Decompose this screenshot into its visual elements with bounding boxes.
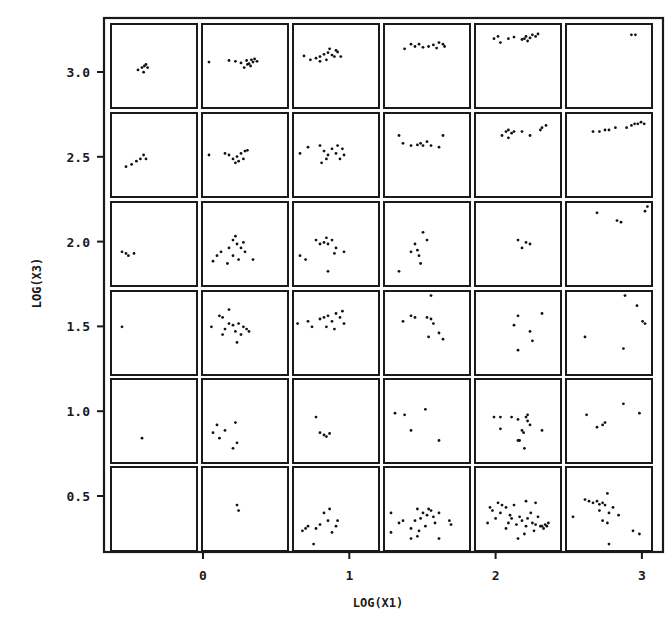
data-point [139, 158, 142, 161]
panel [566, 379, 652, 463]
panel-frame [566, 202, 652, 286]
data-point [624, 294, 627, 297]
data-point [601, 501, 604, 504]
data-point [319, 431, 322, 434]
data-point [438, 439, 441, 442]
data-point [307, 146, 310, 149]
data-point [588, 500, 591, 503]
data-point [236, 243, 239, 246]
data-point [507, 136, 510, 139]
data-point [398, 270, 401, 273]
data-point [402, 320, 405, 323]
panel-frame [384, 24, 470, 108]
data-point [616, 219, 619, 222]
data-point [596, 426, 599, 429]
data-point [622, 347, 625, 350]
data-point [240, 152, 243, 155]
data-point [312, 543, 315, 546]
panel-frame [202, 379, 288, 463]
data-point [137, 69, 140, 72]
data-point [245, 328, 248, 331]
data-point [331, 531, 334, 534]
data-point [529, 512, 532, 515]
data-point [541, 525, 544, 528]
data-point [592, 130, 595, 133]
data-point [208, 154, 211, 157]
data-point [232, 324, 235, 327]
data-point [248, 330, 251, 333]
data-point [216, 254, 219, 257]
data-point [390, 531, 393, 534]
data-point [304, 527, 307, 530]
data-point [641, 320, 644, 323]
data-point [442, 134, 445, 137]
data-point [614, 126, 617, 129]
data-point [509, 514, 512, 517]
data-point [517, 314, 520, 317]
data-point [253, 58, 256, 61]
data-point [534, 35, 537, 38]
data-point [232, 254, 235, 257]
data-point [343, 154, 346, 157]
data-point [319, 144, 322, 147]
panel-frame [475, 291, 561, 375]
panel-frame [111, 202, 197, 286]
data-point [127, 254, 130, 257]
data-point [403, 47, 406, 50]
data-point [505, 527, 508, 530]
data-point [414, 316, 417, 319]
data-point [323, 241, 326, 244]
data-point [606, 522, 609, 525]
panel-frame [475, 24, 561, 108]
panel-frame [384, 113, 470, 197]
data-point [234, 421, 237, 424]
data-point [327, 519, 330, 522]
data-point [617, 514, 620, 517]
data-point [333, 55, 336, 58]
data-point [499, 416, 502, 419]
data-point [636, 304, 639, 307]
data-point [336, 144, 339, 147]
panel [293, 24, 379, 108]
data-point [242, 158, 245, 161]
data-point [121, 250, 124, 253]
data-point [315, 416, 318, 419]
data-point [414, 243, 417, 246]
panel [566, 113, 652, 197]
data-point [327, 154, 330, 157]
data-point [220, 250, 223, 253]
data-point [430, 509, 433, 512]
data-point [533, 529, 536, 532]
data-point [216, 424, 219, 427]
x-tick-label: 0 [199, 568, 207, 583]
data-point [525, 35, 528, 38]
data-point [501, 504, 504, 507]
data-point [534, 501, 537, 504]
x-tick-label: 3 [638, 568, 646, 583]
data-point [501, 134, 504, 137]
data-point [494, 517, 497, 520]
data-point [228, 59, 231, 62]
data-point [526, 413, 529, 416]
data-point [224, 328, 227, 331]
data-point [529, 37, 532, 40]
data-point [327, 270, 330, 273]
data-point [438, 146, 441, 149]
data-point [523, 37, 526, 40]
data-point [541, 126, 544, 129]
data-point [523, 447, 526, 450]
panel [566, 291, 652, 375]
panel-frame [566, 291, 652, 375]
data-point [410, 43, 413, 46]
data-point [604, 504, 607, 507]
data-point [236, 504, 239, 507]
data-point [333, 328, 336, 331]
data-point [525, 241, 528, 244]
panel-frame [475, 202, 561, 286]
panel [293, 291, 379, 375]
data-point [319, 60, 322, 63]
data-point [545, 525, 548, 528]
data-point [529, 243, 532, 246]
data-point [224, 152, 227, 155]
data-point [493, 416, 496, 419]
